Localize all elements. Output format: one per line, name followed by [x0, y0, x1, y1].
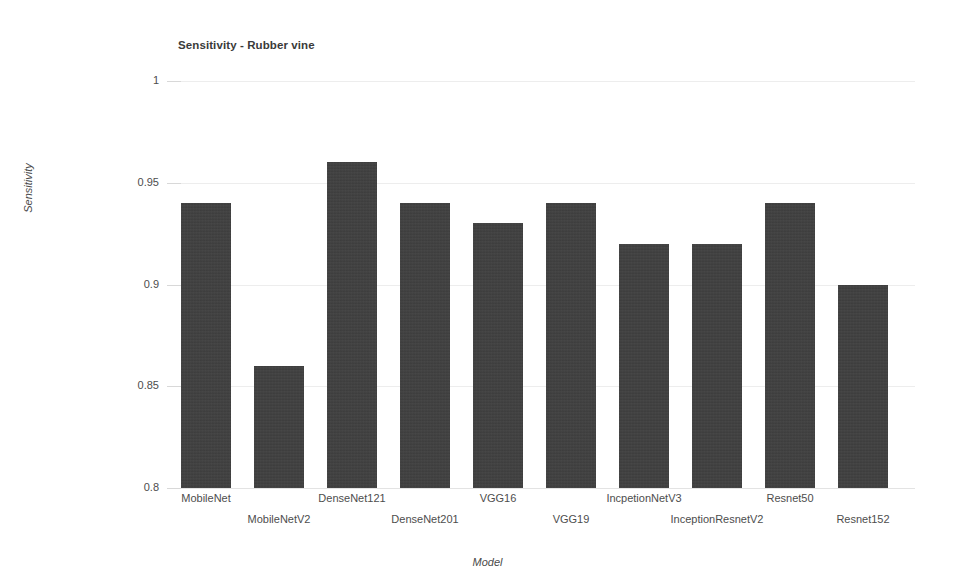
- x-axis-title-text: Model: [473, 556, 503, 568]
- x-axis-title: Model: [0, 556, 965, 568]
- bar: [254, 366, 304, 488]
- y-axis-tick-label: 0.9: [113, 278, 159, 290]
- y-axis-tick-label: 0.85: [113, 379, 159, 391]
- y-axis-tick-mark: [167, 285, 181, 286]
- y-axis-tick-mark: [167, 183, 181, 184]
- chart-title: Sensitivity - Rubber vine: [178, 39, 315, 51]
- bar: [400, 203, 450, 488]
- bar: [181, 203, 231, 488]
- x-axis-tick-label: MobileNetV2: [204, 513, 354, 525]
- y-axis-tick-label: 1: [113, 74, 159, 86]
- x-axis-tick-label: Resnet50: [715, 492, 865, 504]
- y-axis-tick-mark: [167, 386, 181, 387]
- x-axis-tick-label: VGG16: [423, 492, 573, 504]
- y-axis-title: Sensitivity: [22, 128, 34, 248]
- x-axis-tick-label: MobileNet: [131, 492, 281, 504]
- gridline: [181, 488, 915, 489]
- bars-layer: [181, 81, 915, 488]
- bar: [473, 223, 523, 488]
- y-axis-tick-mark: [167, 81, 181, 82]
- x-axis-tick-label: Resnet152: [788, 513, 938, 525]
- x-axis-tick-label: DenseNet201: [350, 513, 500, 525]
- bar: [546, 203, 596, 488]
- bar: [765, 203, 815, 488]
- x-axis-tick-label: IncpetionNetV3: [569, 492, 719, 504]
- bar: [838, 285, 888, 489]
- plot-area: [181, 81, 915, 488]
- bar-chart: Sensitivity - Rubber vine Sensitivity Mo…: [0, 0, 965, 583]
- x-axis-tick-label: InceptionResnetV2: [642, 513, 792, 525]
- bar: [327, 162, 377, 488]
- x-axis-tick-label: VGG19: [496, 513, 646, 525]
- bar: [692, 244, 742, 488]
- x-axis-tick-label: DenseNet121: [277, 492, 427, 504]
- y-axis-tick-mark: [167, 488, 181, 489]
- bar: [619, 244, 669, 488]
- y-axis-tick-label: 0.95: [113, 176, 159, 188]
